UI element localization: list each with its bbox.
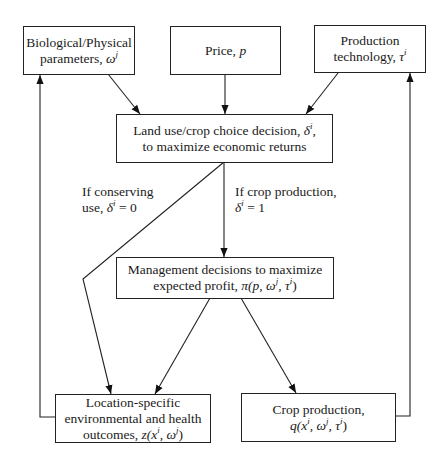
node-text: Price, xyxy=(205,43,240,58)
node-text: environmental and health xyxy=(64,411,201,426)
node-text: technology, xyxy=(333,49,399,64)
formula-part: ) xyxy=(292,278,297,293)
node-biological-physical-parameters: Biological/Physical parameters, ωj xyxy=(23,26,135,75)
formula-part: , ω xyxy=(310,418,326,433)
edge-tech-to-landuse xyxy=(306,73,338,114)
node-text: Management decisions to maximize xyxy=(128,262,323,277)
node-text: Production xyxy=(340,33,399,48)
node-land-use-decision: Land use/crop choice decision, δi, to ma… xyxy=(116,114,333,163)
omega-symbol: ω xyxy=(106,51,116,66)
node-location-specific-outcomes: Location-specific environmental and heal… xyxy=(55,394,211,443)
formula-part: , τ xyxy=(328,418,340,433)
node-text: parameters, xyxy=(40,51,106,66)
edge-env-to-bio xyxy=(40,75,55,417)
node-text: outcomes, xyxy=(83,427,142,442)
node-text: to maximize economic returns xyxy=(143,139,307,154)
label-text: If conserving xyxy=(82,184,154,199)
label-text: use, xyxy=(82,200,107,215)
node-text: Biological/Physical xyxy=(26,35,132,50)
p-symbol: p xyxy=(239,43,246,58)
label-text: = 0 xyxy=(116,200,137,215)
formula-part: ) xyxy=(179,427,184,442)
edge-label-conserving: If conserving use, δi = 0 xyxy=(82,184,154,216)
edge-mgmt-to-env xyxy=(155,298,210,394)
outcome-formula: z(x xyxy=(141,427,157,442)
edge-bio-to-landuse xyxy=(108,74,140,114)
node-production-technology: Production technology, τi xyxy=(314,25,426,73)
label-text: If crop production, xyxy=(235,184,337,199)
formula-part: , τ xyxy=(278,278,290,293)
node-management-decisions: Management decisions to maximize expecte… xyxy=(116,257,334,299)
node-text: Crop production, xyxy=(272,402,364,417)
edge-mgmt-to-crop xyxy=(241,298,296,393)
edge-crop-to-tech xyxy=(395,73,410,416)
node-price: Price, p xyxy=(170,26,281,75)
node-text: expected profit, xyxy=(153,278,241,293)
label-text: = 1 xyxy=(244,200,265,215)
formula-part: , ω xyxy=(160,427,176,442)
profit-formula: π(p, ω xyxy=(241,278,275,293)
node-text: Location-specific xyxy=(86,395,180,410)
node-text: Land use/crop choice decision, xyxy=(133,123,304,138)
superscript: i xyxy=(404,47,407,57)
node-crop-production: Crop production, q(xi, ωj, τi) xyxy=(241,393,396,442)
node-text: , xyxy=(313,123,316,138)
production-formula: q(x xyxy=(290,418,307,433)
formula-part: ) xyxy=(343,418,348,433)
superscript: j xyxy=(116,49,119,59)
edge-label-crop-production: If crop production, δi = 1 xyxy=(235,184,337,216)
